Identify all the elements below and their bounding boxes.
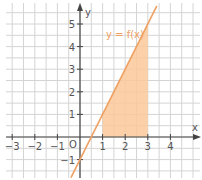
x-axis-arrow-icon [193, 134, 201, 140]
y-tick-label: 4 [69, 42, 75, 53]
x-tick-label: 1 [99, 141, 105, 152]
x-tick-label: 3 [145, 141, 151, 152]
function-label: y = f(x) [106, 29, 144, 40]
y-axis-label: y [85, 7, 91, 18]
y-tick-label: 3 [69, 64, 75, 75]
y-axis-arrow-icon [77, 3, 83, 11]
x-tick-label: −2 [27, 141, 42, 152]
y-tick-label: 2 [69, 87, 75, 98]
x-tick-label: −3 [5, 141, 20, 152]
x-tick-label: 4 [167, 141, 173, 152]
y-tick-label: 5 [69, 19, 75, 30]
origin-label: O [69, 139, 77, 150]
function-graph: −3−2−11234 −112345 x y O y = f(x) [0, 0, 202, 180]
y-tick-label: 1 [69, 109, 75, 120]
y-tick-label: −1 [60, 155, 75, 166]
x-tick-label: 2 [122, 141, 128, 152]
x-tick-label: −1 [50, 141, 65, 152]
x-axis-label: x [192, 122, 198, 133]
